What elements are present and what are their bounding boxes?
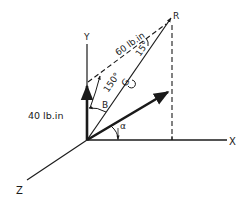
dashed-parallel-line <box>88 24 166 82</box>
angle-150-arc <box>90 76 100 108</box>
alpha-arc <box>111 126 118 139</box>
z-axis <box>27 140 87 180</box>
r-label: R <box>173 11 179 21</box>
x-axis-label: X <box>229 136 236 147</box>
moment-diagram: X Y Z R 40 lb.in 60 lb.in 150° 15° B α G <box>0 0 248 208</box>
y-axis-label: Y <box>83 32 90 42</box>
moment-y-label: 40 lb.in <box>28 110 63 121</box>
alpha-label: α <box>120 121 126 131</box>
z-axis-label: Z <box>16 185 23 196</box>
beta-label: B <box>102 100 108 110</box>
resultant-vector <box>87 92 168 140</box>
